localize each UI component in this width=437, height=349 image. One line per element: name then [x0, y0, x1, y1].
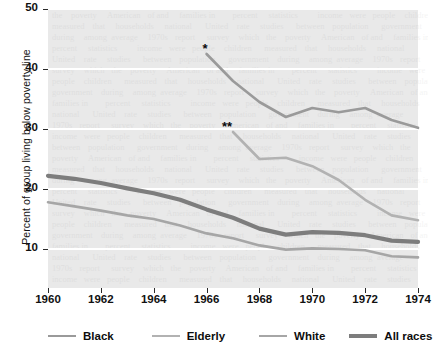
- svg-text:during: during: [186, 142, 209, 152]
- svg-text:government: government: [52, 87, 93, 97]
- svg-text:people: people: [107, 274, 130, 284]
- svg-text:which: which: [373, 142, 395, 152]
- svg-text:report: report: [400, 197, 421, 207]
- svg-text:during: during: [277, 197, 300, 207]
- svg-text:poverty: poverty: [52, 153, 79, 163]
- svg-text:survey: survey: [207, 175, 230, 185]
- svg-text:people: people: [354, 153, 377, 163]
- svg-text:that: that: [305, 186, 318, 196]
- svg-text:income: income: [318, 10, 343, 20]
- svg-text:income: income: [190, 98, 215, 108]
- svg-text:United: United: [332, 131, 356, 141]
- svg-text:rate: rate: [364, 274, 377, 284]
- svg-text:studies: studies: [260, 21, 284, 31]
- svg-text:government: government: [269, 252, 310, 262]
- svg-text:national: national: [377, 186, 405, 196]
- svg-text:children: children: [404, 10, 428, 20]
- svg-text:studies: studies: [147, 252, 171, 262]
- svg-text:children: children: [139, 131, 168, 141]
- svg-text:government: government: [381, 21, 422, 31]
- svg-text:families in: families in: [239, 208, 276, 218]
- svg-text:measured: measured: [52, 164, 85, 174]
- svg-text:income: income: [52, 274, 77, 284]
- svg-text:of and: of and: [361, 32, 383, 42]
- svg-text:statistics: statistics: [141, 98, 170, 108]
- svg-text:average: average: [337, 54, 364, 64]
- svg-text:poverty: poverty: [71, 10, 98, 20]
- svg-text:United: United: [205, 21, 229, 31]
- svg-text:national: national: [237, 76, 265, 86]
- svg-text:statistics: statistics: [328, 208, 357, 218]
- svg-text:measured: measured: [264, 186, 297, 196]
- svg-text:1970s: 1970s: [282, 142, 302, 152]
- svg-text:were: were: [169, 43, 186, 53]
- svg-text:report: report: [175, 32, 196, 42]
- svg-text:survey: survey: [341, 142, 364, 152]
- svg-text:households: households: [188, 76, 226, 86]
- svg-text:studies: studies: [387, 274, 411, 284]
- svg-text:statistics: statistics: [269, 10, 298, 20]
- svg-text:people: people: [192, 186, 215, 196]
- legend-item-white[interactable]: White: [259, 330, 325, 342]
- svg-text:of and: of and: [129, 153, 151, 163]
- svg-text:families in: families in: [298, 263, 335, 273]
- svg-text:the: the: [315, 87, 326, 97]
- svg-text:of and: of and: [410, 87, 428, 97]
- annotation-asterisk: **: [222, 119, 233, 134]
- svg-text:American: American: [370, 87, 404, 97]
- svg-text:government: government: [52, 230, 93, 240]
- svg-text:studies: studies: [387, 131, 411, 141]
- svg-text:1970s: 1970s: [147, 175, 167, 185]
- svg-text:population: population: [220, 109, 257, 119]
- legend-item-black[interactable]: Black: [48, 330, 114, 342]
- svg-text:that: that: [165, 76, 178, 86]
- svg-text:measured: measured: [264, 43, 297, 53]
- svg-text:that: that: [220, 274, 233, 284]
- svg-text:1970s: 1970s: [52, 263, 72, 273]
- svg-text:between: between: [296, 21, 325, 31]
- svg-text:were: were: [84, 274, 101, 284]
- svg-text:United: United: [92, 109, 116, 119]
- svg-text:population: population: [332, 21, 369, 31]
- svg-text:that: that: [92, 164, 105, 174]
- svg-text:during: during: [52, 32, 75, 42]
- svg-text:income: income: [137, 43, 162, 53]
- svg-text:rate: rate: [237, 21, 250, 31]
- svg-text:report: report: [80, 263, 101, 273]
- svg-text:between: between: [52, 142, 81, 152]
- svg-text:percent: percent: [52, 186, 78, 196]
- svg-text:American: American: [88, 153, 122, 163]
- svg-text:poverty: poverty: [190, 263, 217, 273]
- svg-text:during: during: [277, 54, 300, 64]
- svg-text:percent: percent: [105, 98, 131, 108]
- legend-item-all-races[interactable]: All races: [349, 330, 432, 342]
- svg-text:the: the: [400, 142, 411, 152]
- svg-text:rate: rate: [84, 54, 97, 64]
- svg-text:were: were: [409, 208, 426, 218]
- svg-text:families in: families in: [52, 98, 89, 108]
- svg-text:national: national: [292, 274, 320, 284]
- svg-text:government: government: [228, 197, 269, 207]
- svg-text:United: United: [52, 54, 76, 64]
- svg-text:children: children: [84, 219, 113, 229]
- svg-text:national: national: [52, 109, 80, 119]
- svg-text:households: households: [116, 21, 154, 31]
- svg-text:children: children: [277, 98, 306, 108]
- svg-text:report: report: [309, 142, 330, 152]
- svg-text:measured: measured: [52, 21, 85, 31]
- svg-text:between: between: [184, 252, 213, 262]
- svg-text:of and: of and: [361, 175, 383, 185]
- svg-text:children: children: [224, 186, 253, 196]
- svg-text:percent: percent: [52, 43, 78, 53]
- svg-text:report: report: [175, 175, 196, 185]
- svg-text:statistics: statistics: [88, 43, 117, 53]
- svg-text:studies: studies: [332, 219, 356, 229]
- svg-text:1970s: 1970s: [373, 54, 393, 64]
- legend-item-elderly[interactable]: Elderly: [152, 330, 225, 342]
- svg-text:poverty: poverty: [285, 175, 312, 185]
- svg-text:were: were: [331, 153, 348, 163]
- svg-text:among: among: [349, 252, 373, 262]
- svg-text:were: were: [169, 186, 186, 196]
